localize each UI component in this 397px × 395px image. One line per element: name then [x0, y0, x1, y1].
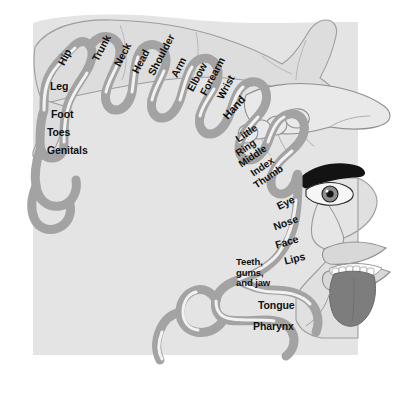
homunculus-figure: HipLegFootToesGenitalsTrunkNeckHeadShoul…	[0, 0, 397, 395]
upper-lip	[323, 242, 386, 264]
label-tongue: Tongue	[258, 300, 295, 311]
label-genitals: Genitals	[47, 145, 88, 156]
label-teeth-gums-jaw: Teeth, gums, and jaw	[236, 257, 270, 289]
label-foot: Foot	[51, 109, 73, 120]
label-toes: Toes	[47, 127, 70, 138]
label-pharynx: Pharynx	[253, 321, 294, 332]
label-leg: Leg	[50, 81, 68, 92]
